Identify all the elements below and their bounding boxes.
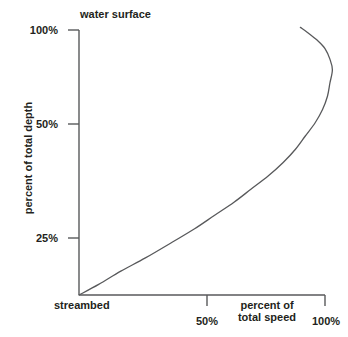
x-axis-title: percent of total speed bbox=[228, 299, 306, 323]
streambed-annotation: streambed bbox=[54, 299, 110, 311]
y-axis-title: percent of total depth bbox=[22, 78, 34, 238]
x-axis-title-line-2: total speed bbox=[228, 311, 306, 323]
y-tick-label-100: 100% bbox=[6, 24, 58, 36]
x-axis-title-line-1: percent of bbox=[228, 299, 306, 311]
plot-area bbox=[0, 0, 348, 337]
x-tick-label-50: 50% bbox=[190, 315, 224, 327]
water-surface-annotation: water surface bbox=[80, 8, 151, 20]
x-tick-label-100: 100% bbox=[308, 315, 344, 327]
velocity-profile-figure: 100% 50% 25% 50% 100% water surface stre… bbox=[0, 0, 348, 337]
velocity-profile-curve bbox=[79, 27, 332, 295]
